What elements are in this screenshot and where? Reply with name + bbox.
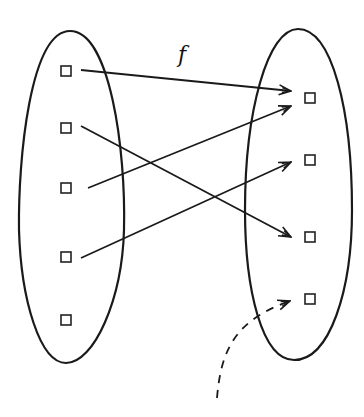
dashed-pointer-arrow	[217, 301, 290, 398]
codomain-set-ellipse	[245, 29, 352, 360]
codomain-point	[305, 155, 315, 165]
function-label: f	[176, 42, 190, 67]
function-diagram: f	[0, 0, 364, 417]
domain-point	[61, 66, 71, 76]
codomain-points	[305, 93, 315, 304]
codomain-point	[305, 294, 315, 304]
domain-point	[61, 183, 71, 193]
domain-point	[61, 252, 71, 262]
codomain-point	[305, 93, 315, 103]
codomain-point	[305, 232, 315, 242]
domain-point	[61, 315, 71, 325]
mapping-arrow-a1-b1	[81, 70, 291, 91]
mapping-arrow-a2-b3	[81, 126, 291, 237]
domain-point	[61, 123, 71, 133]
mapping-arrow-a4-b2	[81, 162, 291, 258]
domain-set-ellipse	[19, 31, 124, 363]
domain-points	[61, 66, 71, 325]
